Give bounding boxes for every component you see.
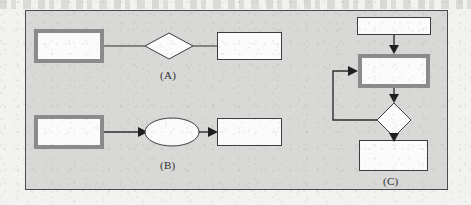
group-c-connectors-and-decision xyxy=(26,11,449,191)
scan-artifact-top-text-ghost xyxy=(0,0,471,9)
diagram-frame: (A) (B) xyxy=(25,10,448,190)
group-c-arrowhead-decision-to-end xyxy=(389,133,399,142)
group-c-feedback-loop-path xyxy=(333,71,377,120)
group-c-arrowhead-start-to-process xyxy=(389,45,399,54)
group-c-decision-diamond xyxy=(377,103,411,137)
group-c-arrowhead-process-to-decision xyxy=(389,94,399,103)
scanned-diagram-page: (A) (B) xyxy=(0,0,471,205)
group-c-label: (C) xyxy=(383,175,399,187)
group-c-arrowhead-feedback xyxy=(348,66,358,76)
